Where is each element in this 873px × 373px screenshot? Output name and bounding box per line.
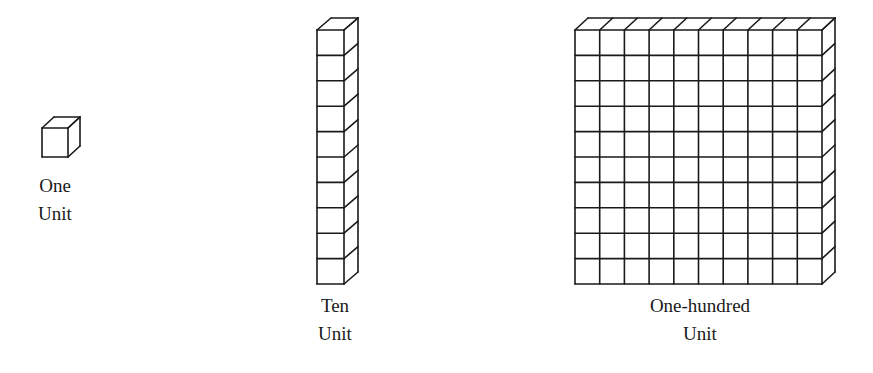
one-unit-cube [42,117,80,157]
ten-unit-label-line2: Unit [310,320,360,348]
hundred-unit-label-line2: Unit [620,320,780,348]
one-unit-label: One Unit [30,172,80,228]
one-unit-label-line1: One [30,172,80,200]
ten-unit-rod [317,18,358,284]
hundred-unit-label-line1: One-hundred [620,292,780,320]
hundred-unit-flat [575,18,835,284]
hundred-unit-label: One-hundred Unit [620,292,780,348]
ten-unit-label-line1: Ten [310,292,360,320]
ten-unit-label: Ten Unit [310,292,360,348]
one-unit-label-line2: Unit [30,200,80,228]
